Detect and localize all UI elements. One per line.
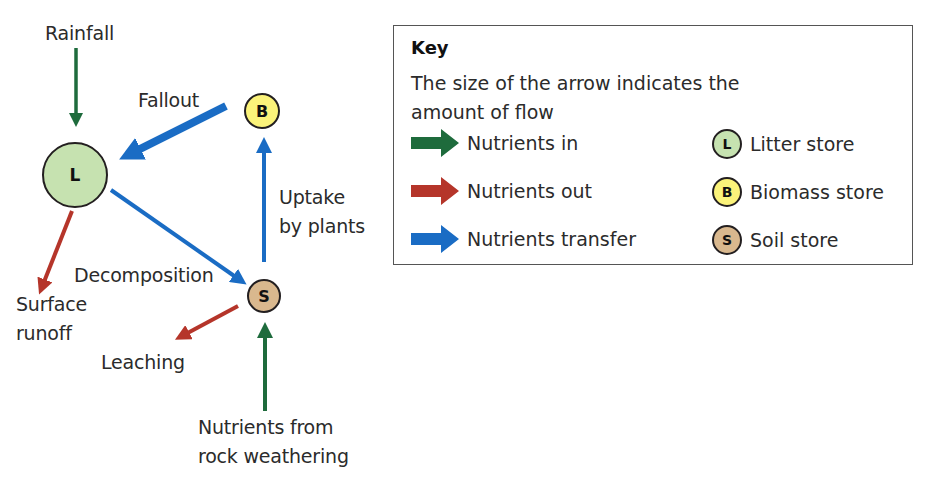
leaching-label: Leaching bbox=[101, 349, 185, 375]
flow-arrows bbox=[0, 0, 390, 483]
key-label: Nutrients transfer bbox=[467, 228, 636, 250]
litter-letter: L bbox=[70, 165, 81, 185]
key-label: Soil store bbox=[750, 229, 838, 251]
uptake-label-line2: by plants bbox=[279, 213, 365, 239]
key-item-nutrients-out: Nutrients out bbox=[411, 177, 592, 205]
leaching-arrow bbox=[182, 306, 238, 336]
blue-arrow-icon bbox=[411, 225, 461, 253]
biomass-node-icon: B bbox=[712, 177, 742, 207]
surface-runoff-arrow bbox=[42, 211, 72, 287]
key-item-nutrients-transfer: Nutrients transfer bbox=[411, 225, 636, 253]
key-label: Biomass store bbox=[750, 181, 884, 203]
litter-store-node: L bbox=[42, 142, 108, 208]
soil-store-node: S bbox=[247, 279, 281, 313]
green-arrow-icon bbox=[411, 129, 461, 157]
key-item-biomass-store: B Biomass store bbox=[712, 177, 884, 207]
key-label: Nutrients in bbox=[467, 132, 578, 154]
surface-runoff-label-line2: runoff bbox=[16, 320, 72, 346]
key-title: Key bbox=[411, 37, 449, 58]
fallout-label: Fallout bbox=[138, 87, 199, 113]
key-item-nutrients-in: Nutrients in bbox=[411, 129, 578, 157]
weathering-label-line1: Nutrients from bbox=[198, 414, 333, 440]
rainfall-label: Rainfall bbox=[45, 20, 114, 46]
soil-letter: S bbox=[722, 232, 732, 248]
key-label: Nutrients out bbox=[467, 180, 592, 202]
biomass-store-node: B bbox=[244, 93, 280, 129]
key-label: Litter store bbox=[750, 133, 854, 155]
uptake-label-line1: Uptake bbox=[279, 184, 345, 210]
fallout-arrow bbox=[132, 106, 226, 153]
key-item-soil-store: S Soil store bbox=[712, 225, 838, 255]
biomass-letter: B bbox=[256, 102, 268, 121]
key-description: The size of the arrow indicates the amou… bbox=[411, 69, 741, 127]
soil-letter: S bbox=[258, 287, 270, 306]
legend-key: Key The size of the arrow indicates the … bbox=[393, 25, 913, 265]
soil-node-icon: S bbox=[712, 225, 742, 255]
litter-letter: L bbox=[723, 136, 732, 152]
weathering-label-line2: rock weathering bbox=[198, 443, 349, 469]
litter-node-icon: L bbox=[712, 129, 742, 159]
nutrient-cycle-diagram: L B S Rainfall Fallout Uptake by plants … bbox=[0, 0, 930, 483]
biomass-letter: B bbox=[722, 184, 733, 200]
red-arrow-icon bbox=[411, 177, 461, 205]
key-item-litter-store: L Litter store bbox=[712, 129, 854, 159]
surface-runoff-label-line1: Surface bbox=[16, 291, 87, 317]
decomposition-label: Decomposition bbox=[74, 262, 214, 288]
